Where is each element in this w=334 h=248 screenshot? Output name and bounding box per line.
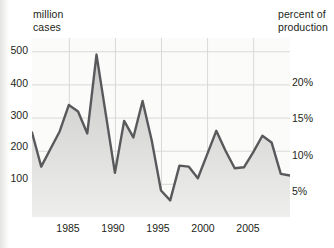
- x-axis-tick-label: 1990: [93, 222, 133, 234]
- y-axis-tick-label: 500: [0, 44, 28, 56]
- y-axis-tick-label: 300: [0, 109, 28, 121]
- y-axis-tick-label: 400: [0, 77, 28, 89]
- x-axis-tick-label: 2005: [228, 222, 268, 234]
- area-chart-svg: [32, 38, 290, 217]
- right-axis-caption: percent of production: [278, 8, 328, 33]
- page-edge-shading: [0, 0, 9, 248]
- y2-axis-tick-label: 15%: [292, 112, 326, 124]
- chart-container: million cases percent of production 500 …: [0, 0, 334, 248]
- x-axis-tick-label: 1985: [48, 222, 88, 234]
- x-axis-tick-label: 1995: [138, 222, 178, 234]
- y2-axis-tick-label: 10%: [292, 149, 326, 161]
- plot-area: [32, 38, 290, 217]
- y-axis-tick-label: 200: [0, 140, 28, 152]
- left-axis-caption: million cases: [33, 8, 63, 33]
- y-axis-tick-label: 100: [0, 172, 28, 184]
- y2-axis-tick-label: 20%: [292, 76, 326, 88]
- x-axis-tick-label: 2000: [183, 222, 223, 234]
- y2-axis-tick-label: 5%: [292, 185, 326, 197]
